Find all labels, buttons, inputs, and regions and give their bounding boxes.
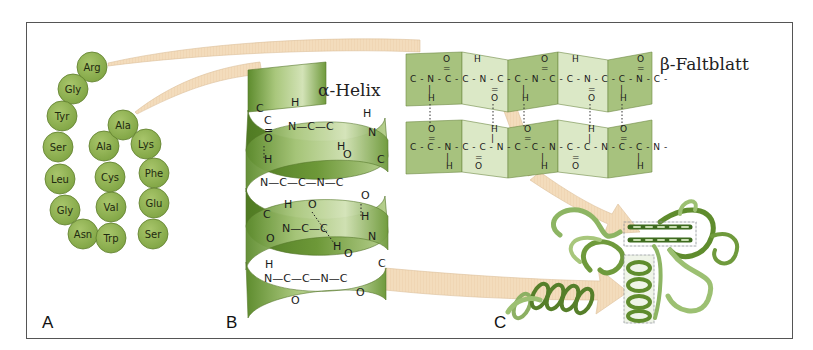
svg-text:H: H xyxy=(620,93,627,103)
beta-sheet-title: β-Faltblatt xyxy=(660,54,749,74)
helix-atom-label: H xyxy=(291,96,299,109)
amino-acid-residue: Leu xyxy=(45,164,75,194)
alpha-helix-ribbon: CHCN—C—CHNO=OHCHN—C—C—N—COHOHCN—C—CNOHOC… xyxy=(246,62,388,318)
svg-text:H: H xyxy=(572,54,579,64)
svg-text:=: = xyxy=(428,133,436,143)
beta-sheet: C - N - C - C - N - C - C - N - C - C - … xyxy=(406,52,668,178)
amino-acid-label: Trp xyxy=(102,233,118,244)
amino-acid-label: Leu xyxy=(51,174,69,185)
beta-top-backbone: C - N - C - C - N - C - C - N - C - C - … xyxy=(410,74,668,84)
amino-acid-label: Tyr xyxy=(54,111,70,122)
helix-atom-label: O xyxy=(361,189,370,202)
helix-atom-label: O xyxy=(266,232,275,245)
amino-acid-residue: Ser xyxy=(43,132,73,162)
svg-text:|: | xyxy=(588,133,592,143)
amino-acid-residue: Lys xyxy=(131,129,161,159)
panel-label-c: C xyxy=(494,313,506,332)
amino-acid-residue: Tyr xyxy=(47,101,77,131)
svg-text:=: = xyxy=(524,133,532,143)
helix-atom-label: N xyxy=(368,230,376,243)
amino-acid-residue: Glu xyxy=(139,188,169,218)
amino-acid-residue: Ser xyxy=(138,219,168,249)
amino-acid-residue: Phe xyxy=(139,158,169,188)
svg-text:H: H xyxy=(446,161,453,171)
protein-structure-diagram: ArgGlyTyrSerLeuGlyAsnTrpValCysAlaAlaLysP… xyxy=(0,0,813,350)
svg-text:O: O xyxy=(475,161,483,171)
amino-acid-label: Ser xyxy=(50,142,68,153)
helix-atom-label: O xyxy=(308,198,317,211)
helix-atom-label: H xyxy=(284,198,292,211)
amino-acid-label: Gly xyxy=(65,84,82,95)
helix-atom-label: C xyxy=(378,257,386,270)
amino-acid-residue: Cys xyxy=(95,162,125,192)
svg-text:=: = xyxy=(541,63,549,73)
panel-label-b: B xyxy=(226,313,237,332)
helix-atom-label: C xyxy=(263,208,271,221)
svg-text:H: H xyxy=(428,93,435,103)
amino-acid-residue: Trp xyxy=(96,223,126,253)
helix-atom-label: N—C—C—N—C xyxy=(260,176,344,189)
amino-acid-label: Glu xyxy=(146,198,163,209)
svg-text:O: O xyxy=(572,161,580,171)
helix-atom-label: C xyxy=(256,102,264,115)
helix-atom-label: O xyxy=(344,247,353,260)
amino-acid-label: Asn xyxy=(74,229,92,240)
amino-acid-residue: Val xyxy=(96,192,126,222)
arrow-beta-to-tertiary xyxy=(530,172,640,234)
arrow-primary-to-beta-sheet xyxy=(108,39,420,66)
amino-acid-residue: Gly xyxy=(50,195,80,225)
helix-atom-label: N—C—C xyxy=(288,120,334,133)
primary-structure-chain: ArgGlyTyrSerLeuGlyAsnTrpValCysAlaAlaLysP… xyxy=(43,52,169,253)
amino-acid-label: Gly xyxy=(57,205,74,216)
amino-acid-residue: Asn xyxy=(68,219,98,249)
amino-acid-label: Phe xyxy=(145,168,164,179)
amino-acid-label: Cys xyxy=(101,172,119,183)
helix-atom-label: = xyxy=(264,124,273,137)
arrow-primary-to-helix xyxy=(135,62,262,114)
beta-bottom-backbone: C - C - N - C - C - N - C - C - N - C - … xyxy=(410,142,668,152)
svg-text:O: O xyxy=(588,93,596,103)
svg-text:H: H xyxy=(522,93,529,103)
svg-text:|: | xyxy=(491,133,495,143)
svg-text:=: = xyxy=(637,63,645,73)
svg-text:H: H xyxy=(474,54,481,64)
amino-acid-label: Val xyxy=(104,202,119,213)
amino-acid-label: Ala xyxy=(115,120,131,131)
helix-atom-label: H xyxy=(363,107,371,120)
helix-atom-label: O xyxy=(356,286,365,299)
alpha-helix-title: α-Helix xyxy=(318,80,381,100)
svg-text:H: H xyxy=(541,161,548,171)
amino-acid-label: Ala xyxy=(96,141,112,152)
helix-atom-label: N—C—C xyxy=(282,222,328,235)
svg-text:O: O xyxy=(491,93,499,103)
panel-label-a: A xyxy=(42,313,54,332)
helix-atom-label: O xyxy=(291,294,300,307)
helix-atom-label: H xyxy=(333,240,341,253)
helix-atom-label: H xyxy=(264,153,272,166)
helix-atom-label: H xyxy=(265,258,273,271)
helix-atom-label: H xyxy=(337,140,345,153)
svg-text:=: = xyxy=(620,133,628,143)
helix-atom-label: C xyxy=(377,153,385,166)
helix-atom-label: N—C—C—N—C xyxy=(264,272,348,285)
helix-atom-label: N xyxy=(368,126,376,139)
helix-atom-label: H xyxy=(361,210,369,223)
amino-acid-label: Arg xyxy=(83,62,100,73)
amino-acid-label: Ser xyxy=(145,229,163,240)
svg-text:=: = xyxy=(443,63,451,73)
amino-acid-label: Lys xyxy=(138,139,154,150)
svg-text:H: H xyxy=(637,161,644,171)
amino-acid-residue: Gly xyxy=(58,74,88,104)
